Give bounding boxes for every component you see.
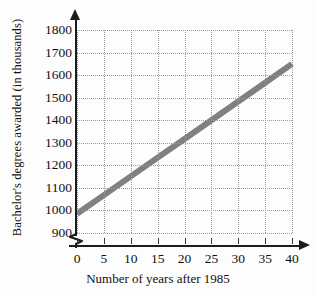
y-axis-tick-label: 1700 <box>24 46 72 60</box>
grid-line-horizontal <box>77 53 292 54</box>
x-axis-tick-mark <box>185 238 186 244</box>
x-axis-tick-label: 5 <box>101 252 108 266</box>
grid-line-vertical <box>211 30 212 233</box>
x-axis-tick-mark <box>77 238 78 244</box>
grid-line-vertical <box>265 30 266 233</box>
y-axis-tick-label: 1000 <box>24 204 72 218</box>
x-axis-tick-mark <box>292 238 293 244</box>
x-axis-tick-mark <box>158 238 159 244</box>
grid-line-horizontal <box>77 120 292 121</box>
y-axis-arrow-icon <box>70 9 80 20</box>
plot-area <box>77 30 292 233</box>
grid-line-horizontal <box>77 210 292 211</box>
x-axis-title: Number of years after 1985 <box>0 271 316 287</box>
grid-line-horizontal <box>77 233 292 234</box>
grid-line-vertical <box>292 30 293 233</box>
grid-line-vertical <box>185 30 186 233</box>
y-axis-tick-label: 1500 <box>24 91 72 105</box>
x-axis-tick-labels: 0510152025303540 <box>77 252 292 272</box>
x-axis-tick-mark <box>238 238 239 244</box>
y-axis-tick-label: 1400 <box>24 113 72 127</box>
x-axis-tick-label: 0 <box>74 252 81 266</box>
y-axis-tick-label: 1200 <box>24 159 72 173</box>
grid-line-horizontal <box>77 165 292 166</box>
grid-line-vertical <box>104 30 105 233</box>
grid-line-vertical <box>158 30 159 233</box>
grid-line-horizontal <box>77 188 292 189</box>
x-axis-tick-mark <box>104 238 105 244</box>
x-axis-arrow-icon <box>299 240 310 250</box>
line-chart-figure: Bachelor's degrees awarded (in thousands… <box>0 0 316 297</box>
x-axis-tick-mark <box>211 238 212 244</box>
x-axis-tick-mark <box>265 238 266 244</box>
x-axis-tick-label: 20 <box>178 252 192 266</box>
grid-line-horizontal <box>77 98 292 99</box>
grid-line-vertical <box>131 30 132 233</box>
x-axis-tick-label: 35 <box>258 252 272 266</box>
y-axis-tick-label: 1600 <box>24 68 72 82</box>
x-axis-tick-label: 10 <box>124 252 138 266</box>
y-axis-tick-label: 1100 <box>24 181 72 195</box>
y-axis-tick-label: 1800 <box>24 23 72 37</box>
x-axis-tick-label: 30 <box>232 252 246 266</box>
x-axis-tick-mark <box>131 238 132 244</box>
grid-line-horizontal <box>77 30 292 31</box>
grid-line-vertical <box>77 30 78 233</box>
y-axis-tick-labels: 900100011001200130014001500160017001800 <box>24 30 72 233</box>
y-axis-tick-label: 900 <box>24 226 72 240</box>
x-axis-tick-label: 40 <box>285 252 299 266</box>
grid-line-vertical <box>238 30 239 233</box>
x-axis-tick-label: 15 <box>151 252 165 266</box>
y-axis-title: Bachelor's degrees awarded (in thousands… <box>10 3 25 253</box>
grid-line-horizontal <box>77 75 292 76</box>
y-axis-line <box>75 18 77 236</box>
x-axis-tick-label: 25 <box>205 252 219 266</box>
y-axis-tick-label: 1300 <box>24 136 72 150</box>
grid-line-horizontal <box>77 143 292 144</box>
x-axis-tick-marks <box>77 238 292 246</box>
